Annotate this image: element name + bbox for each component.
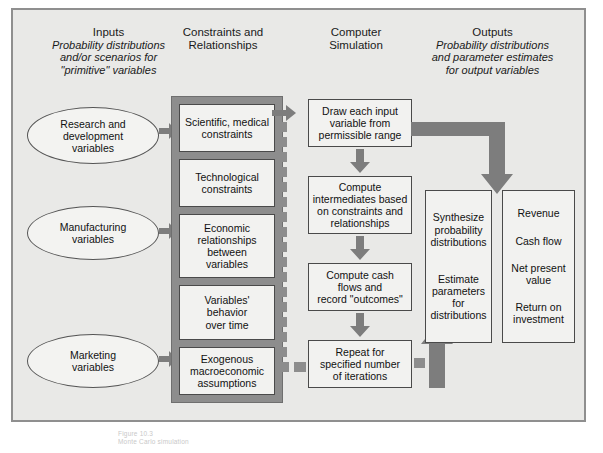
estimate-line-2: parameters bbox=[429, 285, 488, 297]
synthesis-group-synthesize: Synthesize probability distributions bbox=[429, 211, 488, 248]
npv-line-2: value bbox=[507, 274, 570, 286]
scientific-line-2: constraints bbox=[185, 128, 269, 140]
rnd-line-1: Research and bbox=[60, 118, 125, 130]
constraint-box-variable-behavior: Variables' behavior over time bbox=[179, 285, 275, 340]
output-item-revenue: Revenue bbox=[507, 207, 570, 219]
synthesize-line-3: distributions bbox=[429, 236, 488, 248]
repeat-line-2: specified number bbox=[320, 358, 400, 370]
constraint-box-exogenous: Exogenous macroeconomic assumptions bbox=[179, 347, 275, 395]
outputs-subtitle-line-1: Probability distributions bbox=[405, 39, 580, 52]
outputs-subtitle-line-2: and parameter estimates bbox=[405, 51, 580, 64]
simulation-step-compute-intermediates: Compute intermediates based on constrain… bbox=[308, 176, 412, 234]
roi-line-2: investment bbox=[507, 313, 570, 325]
behavior-line-3: over time bbox=[205, 319, 250, 331]
simulation-title-line-2: Simulation bbox=[296, 39, 416, 52]
estimate-line-3: for bbox=[429, 297, 488, 309]
draw-line-2: variable from bbox=[319, 117, 402, 129]
draw-line-1: Draw each input bbox=[319, 105, 402, 117]
compute-cash-line-3: record "outcomes" bbox=[317, 293, 403, 305]
compute-cash-line-1: Compute cash bbox=[317, 269, 403, 281]
compute-intermediates-line-3: on constraints and bbox=[313, 205, 408, 217]
manufacturing-line-1: Manufacturing bbox=[60, 221, 127, 233]
input-node-marketing: Marketing variables bbox=[27, 334, 159, 388]
arrow-draw-to-compute-intermediates bbox=[350, 149, 370, 173]
constraint-box-technological: Technological constraints bbox=[179, 159, 275, 207]
constraints-title-line-1: Constraints and bbox=[153, 26, 293, 39]
figure-caption-line-2: Monte Carlo simulation bbox=[118, 438, 189, 446]
compute-intermediates-line-2: intermediates based bbox=[313, 193, 408, 205]
technological-line-1: Technological bbox=[195, 171, 259, 183]
synthesize-line-1: Synthesize bbox=[429, 211, 488, 223]
economic-line-2: relationships bbox=[198, 234, 257, 246]
arrow-dashed-head-to-draw-step bbox=[272, 105, 296, 121]
figure-caption: Figure 10.3 Monte Carlo simulation bbox=[118, 430, 189, 446]
scientific-line-1: Scientific, medical bbox=[185, 116, 269, 128]
inputs-subtitle-line-2: and/or scenarios for bbox=[31, 51, 186, 64]
simulation-step-repeat: Repeat for specified number of iteration… bbox=[308, 340, 412, 388]
outputs-subtitle-line-3: for output variables bbox=[405, 64, 580, 77]
economic-line-1: Economic bbox=[198, 222, 257, 234]
exogenous-line-2: macroeconomic bbox=[190, 365, 264, 377]
rnd-line-3: variables bbox=[60, 142, 125, 154]
draw-line-3: permissible range bbox=[319, 129, 402, 141]
revenue-line-1: Revenue bbox=[507, 207, 570, 219]
behavior-line-1: Variables' bbox=[205, 294, 250, 306]
simulation-step-draw: Draw each input variable from permissibl… bbox=[308, 99, 412, 147]
roi-line-1: Return on bbox=[507, 301, 570, 313]
diagram-panel: Inputs Probability distributions and/or … bbox=[11, 8, 586, 422]
arrow-intermediates-to-cash-flows bbox=[350, 236, 370, 260]
estimate-line-4: distributions bbox=[429, 309, 488, 321]
column-header-simulation: Computer Simulation bbox=[296, 26, 416, 51]
inputs-subtitle-line-3: "primitive" variables bbox=[31, 64, 186, 77]
repeat-line-3: of iterations bbox=[320, 370, 400, 382]
column-header-outputs: Outputs Probability distributions and pa… bbox=[405, 26, 580, 76]
economic-line-4: variables bbox=[198, 258, 257, 270]
output-item-net-present-value: Net present value bbox=[507, 262, 570, 286]
compute-cash-line-2: flows and bbox=[317, 281, 403, 293]
exogenous-line-3: assumptions bbox=[190, 377, 264, 389]
marketing-line-1: Marketing bbox=[70, 349, 116, 361]
synthesize-line-2: probability bbox=[429, 224, 488, 236]
figure-caption-line-1: Figure 10.3 bbox=[118, 430, 189, 438]
column-header-constraints: Constraints and Relationships bbox=[153, 26, 293, 51]
simulation-title-line-1: Computer bbox=[296, 26, 416, 39]
compute-intermediates-line-4: relationships bbox=[313, 217, 408, 229]
output-item-cash-flow: Cash flow bbox=[507, 235, 570, 247]
arrow-simulation-to-outputs-elbow bbox=[409, 122, 519, 198]
cash-flow-line-1: Cash flow bbox=[507, 235, 570, 247]
constraints-container: Scientific, medical constraints Technolo… bbox=[171, 96, 283, 403]
exogenous-line-1: Exogenous bbox=[190, 353, 264, 365]
rnd-line-2: development bbox=[60, 130, 125, 142]
outputs-title: Outputs bbox=[405, 26, 580, 39]
simulation-step-compute-cash-flows: Compute cash flows and record "outcomes" bbox=[308, 263, 412, 311]
manufacturing-line-2: variables bbox=[60, 233, 127, 245]
compute-intermediates-line-1: Compute bbox=[313, 181, 408, 193]
economic-line-3: between bbox=[198, 246, 257, 258]
constraint-box-economic: Economic relationships between variables bbox=[179, 214, 275, 278]
input-node-research-and-development: Research and development variables bbox=[27, 107, 159, 164]
figure-canvas: Inputs Probability distributions and/or … bbox=[0, 0, 603, 453]
outputs-box: Revenue Cash flow Net present value Retu… bbox=[502, 190, 575, 343]
technological-line-2: constraints bbox=[195, 183, 259, 195]
constraint-box-scientific: Scientific, medical constraints bbox=[179, 104, 275, 152]
behavior-line-2: behavior bbox=[205, 306, 250, 318]
synthesis-box: Synthesize probability distributions Est… bbox=[425, 190, 492, 343]
synthesis-group-estimate: Estimate parameters for distributions bbox=[429, 273, 488, 322]
repeat-line-1: Repeat for bbox=[320, 346, 400, 358]
arrow-cash-flows-to-repeat bbox=[350, 313, 370, 337]
constraints-title-line-2: Relationships bbox=[153, 39, 293, 52]
estimate-line-1: Estimate bbox=[429, 273, 488, 285]
input-node-manufacturing: Manufacturing variables bbox=[27, 206, 159, 260]
output-item-return-on-investment: Return on investment bbox=[507, 301, 570, 325]
marketing-line-2: variables bbox=[70, 361, 116, 373]
npv-line-1: Net present bbox=[507, 262, 570, 274]
